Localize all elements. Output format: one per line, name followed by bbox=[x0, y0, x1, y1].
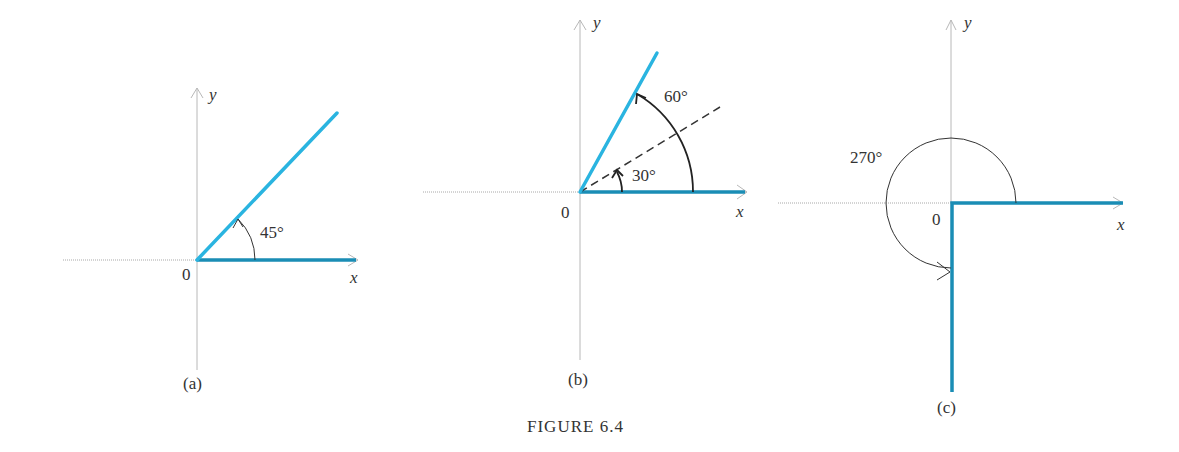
x-axis-label: x bbox=[735, 202, 744, 221]
angle-label-30: 30° bbox=[632, 166, 656, 185]
angle-label-60: 60° bbox=[664, 87, 688, 106]
x-axis-label: x bbox=[349, 268, 358, 287]
arc-arrow-icon bbox=[937, 262, 950, 280]
angle-arc-45 bbox=[238, 219, 255, 260]
figure-canvas: 45° 0 x y (a) 60° 30° 0 x y (b) 270° 0 bbox=[0, 0, 1179, 452]
initial-and-terminal-sides bbox=[952, 203, 1123, 392]
panel-b: 60° 30° 0 x y (b) bbox=[423, 13, 747, 389]
origin-label: 0 bbox=[182, 265, 191, 284]
panel-c: 270° 0 x y (c) bbox=[778, 13, 1125, 417]
panel-label-c: (c) bbox=[937, 398, 956, 417]
panel-label-b: (b) bbox=[568, 370, 588, 389]
angle-label-270: 270° bbox=[850, 148, 882, 167]
angle-label-45: 45° bbox=[260, 223, 284, 242]
y-axis-label: y bbox=[962, 13, 972, 32]
x-axis-label: x bbox=[1116, 215, 1125, 234]
origin-label: 0 bbox=[932, 210, 941, 229]
origin-label: 0 bbox=[561, 203, 570, 222]
figure-caption: FIGURE 6.4 bbox=[527, 417, 624, 436]
y-axis-label: y bbox=[591, 13, 601, 32]
panel-label-a: (a) bbox=[183, 374, 202, 393]
panel-a: 45° 0 x y (a) bbox=[63, 85, 358, 393]
y-axis-label: y bbox=[207, 85, 217, 104]
